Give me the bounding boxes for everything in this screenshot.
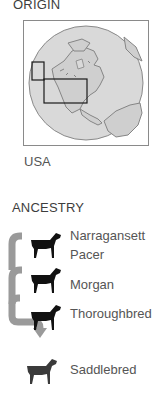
breed-label-morgan: Morgan xyxy=(70,276,114,293)
horse-icon xyxy=(28,230,64,260)
origin-map xyxy=(23,20,149,146)
horse-icon xyxy=(28,265,64,295)
horse-icon xyxy=(24,356,60,386)
breed-label-thoroughbred: Thoroughbred xyxy=(70,305,152,322)
origin-heading: ORIGIN xyxy=(13,0,60,12)
origin-country: USA xyxy=(24,154,51,169)
breed-label-pacer: Pacer xyxy=(70,246,104,263)
globe-icon xyxy=(24,21,148,145)
ancestry-heading: ANCESTRY xyxy=(12,200,84,215)
breed-label-saddlebred: Saddlebred xyxy=(70,361,137,378)
horse-icon xyxy=(28,302,64,332)
breed-label-narragansett: Narragansett xyxy=(70,227,145,244)
